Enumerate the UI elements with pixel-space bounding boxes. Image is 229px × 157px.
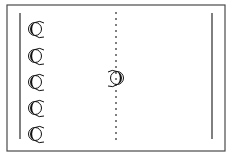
- player-icon: [29, 100, 45, 116]
- player-icon: [29, 21, 45, 37]
- court-diagram: [0, 0, 229, 157]
- player-icon: [29, 48, 45, 64]
- player-icon: [29, 126, 45, 142]
- player-icon: [29, 74, 45, 90]
- players-group: [29, 21, 124, 142]
